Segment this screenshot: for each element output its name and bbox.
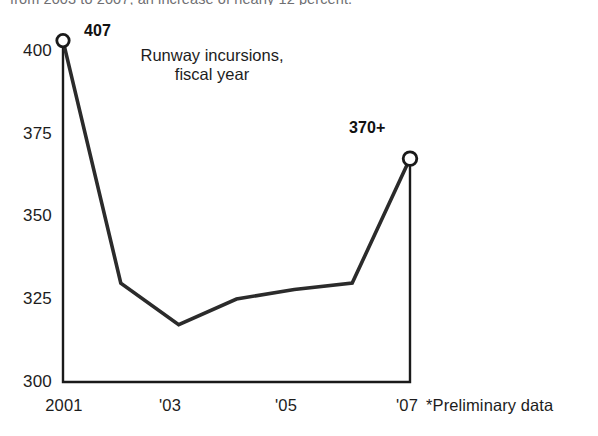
x-axis-tick-2005: '05 [262, 396, 310, 415]
y-axis-tick-375: 375 [6, 124, 52, 144]
chart-title-line-1: Runway incursions, [104, 46, 320, 65]
chart-title: Runway incursions, fiscal year [104, 46, 320, 84]
axis-lines [63, 41, 410, 382]
data-point-marker-2007 [403, 152, 417, 166]
y-axis-tick-350: 350 [6, 206, 52, 226]
x-axis-tick-2001: 2001 [32, 396, 96, 415]
annotation-value-407: 407 [84, 22, 111, 40]
x-axis-tick-2007: '07 [383, 396, 431, 415]
chart-title-line-2: fiscal year [104, 65, 320, 84]
annotation-value-370-plus: 370+ [349, 119, 385, 137]
data-point-marker-2001 [57, 34, 69, 46]
y-axis-tick-400: 400 [6, 41, 52, 61]
y-axis-tick-325: 325 [6, 289, 52, 309]
chart-figure: from 2003 to 2007, an increase of nearly… [0, 0, 598, 436]
x-axis-tick-2003: '03 [146, 396, 194, 415]
footnote-preliminary-data: *Preliminary data [426, 396, 553, 415]
y-axis-tick-300: 300 [6, 372, 52, 392]
